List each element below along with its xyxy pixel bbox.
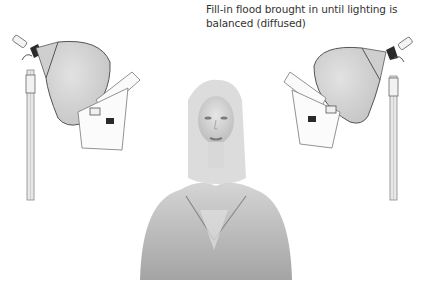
left-flood-lamp	[12, 35, 140, 200]
lighting-illustration	[0, 0, 427, 287]
right-flood-lamp	[284, 37, 413, 200]
portrait-woman	[140, 80, 292, 280]
